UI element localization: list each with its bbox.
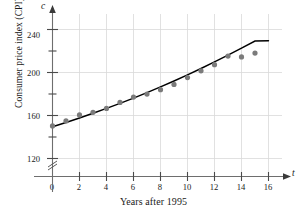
data-point — [212, 62, 217, 67]
plot-area — [0, 0, 307, 217]
data-point — [225, 53, 230, 58]
axes — [34, 5, 291, 192]
data-point — [252, 50, 257, 55]
data-point — [158, 87, 163, 92]
data-point — [50, 123, 55, 128]
data-point — [185, 75, 190, 80]
data-point — [63, 118, 68, 123]
data-point — [198, 68, 203, 73]
data-point — [90, 110, 95, 115]
data-point — [171, 82, 176, 87]
data-point — [77, 112, 82, 117]
cpi-scatter-chart: c t Consumer price index (CPI) Years aft… — [0, 0, 307, 217]
data-point — [144, 92, 149, 97]
data-point — [239, 54, 244, 59]
gridlines — [53, 14, 282, 176]
data-point — [131, 95, 136, 100]
data-point — [117, 100, 122, 105]
data-point — [104, 106, 109, 111]
